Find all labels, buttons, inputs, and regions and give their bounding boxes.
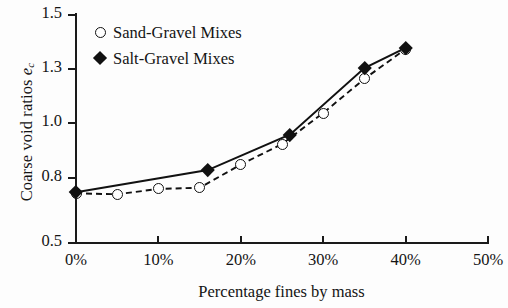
- legend-item-salt-gravel: Salt-Gravel Mixes: [92, 46, 242, 72]
- data-point-open-circle: [112, 189, 123, 200]
- legend-label-salt-gravel: Salt-Gravel Mixes: [113, 51, 234, 68]
- data-point-open-circle: [277, 139, 288, 150]
- legend-label-sand-gravel: Sand-Gravel Mixes: [113, 25, 242, 42]
- chart-figure: Coarse void ratios ec 1.51.31.00.80.5 Sa…: [0, 0, 508, 308]
- x-tick-label: 40%: [376, 252, 436, 269]
- data-point-open-circle: [318, 108, 329, 119]
- chart-legend: Sand-Gravel Mixes Salt-Gravel Mixes: [92, 20, 242, 72]
- x-axis-tick-labels: 0%10%20%30%40%50%: [0, 252, 508, 278]
- x-tick-label: 50%: [458, 252, 508, 269]
- x-tick-label: 10%: [128, 252, 188, 269]
- x-tick-label: 30%: [293, 252, 353, 269]
- open-circle-icon: [92, 23, 112, 43]
- x-axis-title: Percentage fines by mass: [75, 282, 488, 302]
- legend-item-sand-gravel: Sand-Gravel Mixes: [92, 20, 242, 46]
- x-tick-label: 20%: [211, 252, 271, 269]
- x-tick-label: 0%: [46, 252, 106, 269]
- filled-diamond-icon: [92, 49, 112, 69]
